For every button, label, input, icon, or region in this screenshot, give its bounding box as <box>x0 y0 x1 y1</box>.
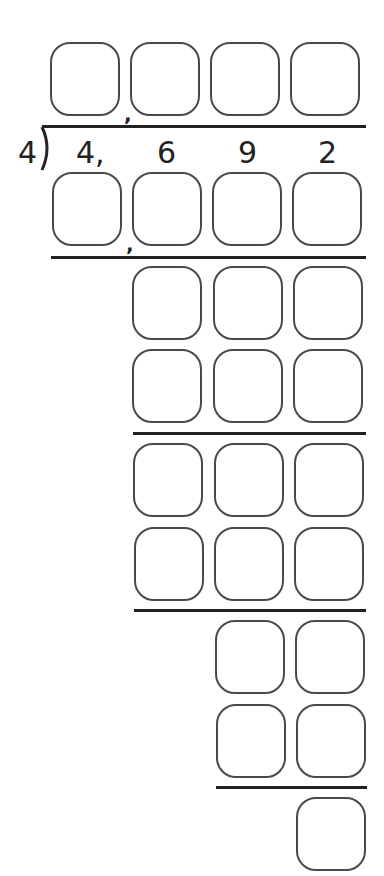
quotient-comma: , <box>124 104 132 124</box>
step2-remainder-box-1[interactable] <box>132 266 202 340</box>
quotient-box-4[interactable] <box>290 42 360 116</box>
dividend-digit-2: 6 <box>157 138 176 168</box>
step2-remainder-box-2[interactable] <box>213 266 283 340</box>
step3-product-box-2[interactable] <box>214 527 284 601</box>
quotient-box-1[interactable] <box>50 42 120 116</box>
step1-box-3[interactable] <box>212 172 282 246</box>
divisor: 4 <box>18 138 37 168</box>
step3-remainder-box-1[interactable] <box>133 443 203 517</box>
division-bracket <box>38 126 54 172</box>
step3-remainder-box-2[interactable] <box>214 443 284 517</box>
step1-box-2[interactable] <box>132 172 202 246</box>
final-remainder-box[interactable] <box>296 797 366 871</box>
step4-product-box-2[interactable] <box>296 704 366 778</box>
step3-product-box-1[interactable] <box>134 527 204 601</box>
step4-remainder-box-2[interactable] <box>295 620 365 694</box>
subtraction-line-4 <box>216 786 367 789</box>
subtraction-line-1 <box>51 256 366 259</box>
quotient-box-2[interactable] <box>130 42 200 116</box>
step1-comma: , <box>126 234 134 254</box>
step2-product-box-3[interactable] <box>293 349 363 423</box>
step3-product-box-3[interactable] <box>294 527 364 601</box>
quotient-box-3[interactable] <box>210 42 280 116</box>
step4-product-box-1[interactable] <box>216 704 286 778</box>
division-bar <box>42 125 366 128</box>
step3-remainder-box-3[interactable] <box>294 443 364 517</box>
step2-product-box-2[interactable] <box>213 349 283 423</box>
subtraction-line-3 <box>134 609 366 612</box>
step2-remainder-box-3[interactable] <box>293 266 363 340</box>
step2-product-box-1[interactable] <box>132 349 202 423</box>
step4-remainder-box-1[interactable] <box>215 620 285 694</box>
dividend-digit-3: 9 <box>238 138 257 168</box>
step1-box-1[interactable] <box>52 172 122 246</box>
step1-box-4[interactable] <box>292 172 362 246</box>
dividend-digit-4: 2 <box>318 138 337 168</box>
subtraction-line-2 <box>133 432 366 435</box>
dividend-digit-1: 4, <box>76 138 105 168</box>
